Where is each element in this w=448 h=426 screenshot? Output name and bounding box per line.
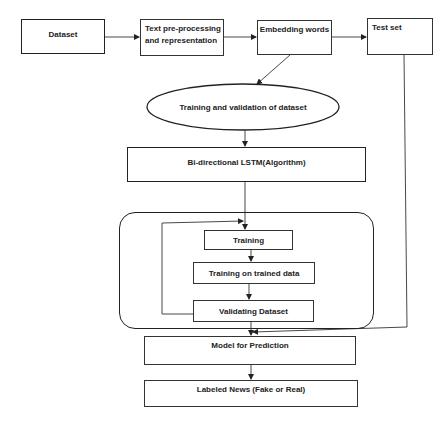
- model-label: Model for Prediction: [211, 341, 288, 364]
- training-box: Training: [204, 230, 293, 250]
- validating-box: Validating Dataset: [193, 300, 314, 322]
- preprocessing-label-line1: Text pre-processing: [145, 23, 223, 35]
- dataset-box: Dataset: [21, 19, 105, 54]
- preprocessing-label-line2: and representation: [145, 35, 223, 47]
- dataset-label: Dataset: [49, 30, 78, 39]
- training-on-trained-label: Training on trained data: [209, 269, 300, 278]
- test-set-box: Test set: [367, 18, 433, 55]
- labeled-news-box: Labeled News (Fake or Real): [144, 380, 358, 407]
- labeled-news-label: Labeled News (Fake or Real): [197, 385, 305, 406]
- preprocessing-box: Text pre-processing and representation: [140, 19, 224, 56]
- embedding-label: Embedding words: [260, 25, 329, 54]
- training-on-trained-box: Training on trained data: [193, 262, 315, 284]
- arrow-embedding-to-training-validation: [257, 55, 290, 84]
- training-validation-label: Training and validation of dataset: [147, 97, 339, 117]
- bilstm-box: Bi-directional LSTM(Algorithm): [127, 147, 366, 182]
- validating-label: Validating Dataset: [219, 307, 288, 316]
- embedding-box: Embedding words: [257, 20, 332, 55]
- model-box: Model for Prediction: [144, 336, 356, 365]
- test-set-label: Test set: [372, 23, 402, 32]
- bilstm-label: Bi-directional LSTM(Algorithm): [187, 158, 305, 167]
- training-label: Training: [233, 236, 264, 245]
